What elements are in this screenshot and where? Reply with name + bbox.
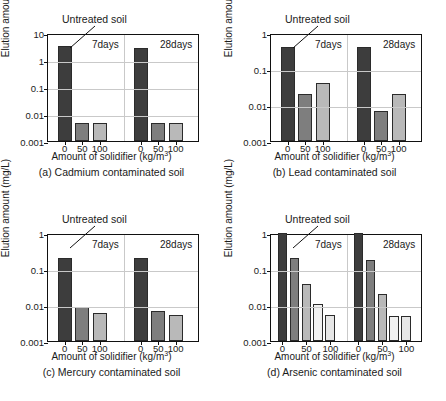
gridline <box>48 271 198 272</box>
bar <box>93 123 107 141</box>
bar <box>298 94 312 141</box>
untreated-soil-annotation-c: Untreated soil <box>62 214 127 225</box>
bar <box>354 233 364 341</box>
group-label-7days-b: 7days <box>315 40 342 50</box>
plot-area-c: 10.10.010.001050100050100 <box>47 234 199 342</box>
untreated-soil-annotation-a: Untreated soil <box>62 14 127 25</box>
y-tick-label: 0.01 <box>26 111 45 121</box>
group-divider <box>124 35 125 141</box>
y-tick-mark <box>44 116 48 117</box>
y-tick-label: 1 <box>262 30 267 40</box>
y-axis-label-c: Elution amount (mg/L) <box>0 154 13 262</box>
x-axis-label-c: Amount of solidifier (kg/m3) <box>0 350 223 362</box>
y-tick-label: 0.1 <box>31 266 44 276</box>
panel-caption-d: (d) Arsenic contaminated soil <box>223 366 446 378</box>
group-label-28days-b: 28days <box>383 40 415 50</box>
y-tick-label: 0.001 <box>243 138 267 148</box>
y-tick-label: 0.01 <box>26 302 45 312</box>
untreated-soil-annotation-b: Untreated soil <box>285 14 350 25</box>
y-tick-label: 1 <box>262 230 267 240</box>
y-tick-label: 1 <box>39 57 44 67</box>
bar <box>401 316 411 341</box>
bar <box>313 304 323 341</box>
panel-caption-a: (a) Cadmium contaminated soil <box>0 166 223 178</box>
y-tick-mark <box>267 235 271 236</box>
y-tick-mark <box>44 62 48 63</box>
x-axis-label-a: Amount of solidifier (kg/m3) <box>0 150 223 162</box>
group-label-28days-a: 28days <box>160 40 192 50</box>
group-label-28days-d: 28days <box>383 240 415 250</box>
group-label-7days-a: 7days <box>92 40 119 50</box>
y-tick-mark <box>267 143 271 144</box>
gridline <box>271 307 421 308</box>
y-tick-mark <box>267 307 271 308</box>
group-label-28days-c: 28days <box>160 240 192 250</box>
bar <box>169 315 183 341</box>
bar <box>389 316 399 341</box>
gridline <box>48 89 198 90</box>
y-tick-label: 0.001 <box>20 338 44 348</box>
group-divider <box>347 35 348 141</box>
bar <box>278 233 288 341</box>
group-divider <box>347 235 348 341</box>
y-tick-mark <box>44 143 48 144</box>
bars-container-b <box>271 35 421 141</box>
y-tick-mark <box>44 307 48 308</box>
y-tick-mark <box>267 35 271 36</box>
chart-panel-arsenic: Elution amount (mg/L) 10.10.010.00105010… <box>223 200 446 400</box>
gridline <box>271 271 421 272</box>
y-tick-label: 0.1 <box>31 84 44 94</box>
bar <box>93 313 107 341</box>
bar <box>58 46 72 141</box>
bar <box>374 111 388 141</box>
bar <box>151 123 165 141</box>
bar <box>316 83 330 141</box>
x-axis-label-b: Amount of solidifier (kg/m3) <box>223 150 446 162</box>
bars-container-d <box>271 235 421 341</box>
y-tick-mark <box>44 89 48 90</box>
y-tick-mark <box>267 343 271 344</box>
chart-panel-mercury: Elution amount (mg/L) 10.10.010.00105010… <box>0 200 223 400</box>
y-tick-mark <box>267 107 271 108</box>
panel-caption-b: (b) Lead contaminated soil <box>223 166 446 178</box>
chart-panel-lead: Elution amount (mg/L) 10.10.010.00105010… <box>223 0 446 200</box>
y-tick-label: 10 <box>33 30 44 40</box>
y-tick-label: 0.01 <box>249 102 268 112</box>
group-divider <box>124 235 125 341</box>
y-tick-label: 0.001 <box>243 338 267 348</box>
bar <box>281 47 295 141</box>
plot-area-b: 10.10.010.001050100050100 <box>270 34 422 142</box>
gridline <box>48 116 198 117</box>
bar <box>325 315 335 341</box>
bar <box>357 47 371 141</box>
y-tick-mark <box>44 343 48 344</box>
plot-area-d: 10.10.010.001050100050100 <box>270 234 422 342</box>
y-tick-label: 0.1 <box>254 66 267 76</box>
plot-area-a: 1010.10.010.001050100050100 <box>47 34 199 142</box>
y-tick-label: 0.01 <box>249 302 268 312</box>
group-label-7days-d: 7days <box>315 240 342 250</box>
y-tick-label: 1 <box>39 230 44 240</box>
untreated-soil-annotation-d: Untreated soil <box>285 214 350 225</box>
gridline <box>48 307 198 308</box>
y-tick-mark <box>267 71 271 72</box>
group-label-7days-c: 7days <box>92 240 119 250</box>
y-tick-mark <box>44 35 48 36</box>
chart-panel-cadmium: Elution amount (mg/L) 1010.10.010.001050… <box>0 0 223 200</box>
bar <box>75 307 89 341</box>
bar <box>169 123 183 141</box>
bar <box>392 94 406 141</box>
y-tick-mark <box>44 235 48 236</box>
bars-container-c <box>48 235 198 341</box>
y-axis-label-a: Elution amount (mg/L) <box>0 0 13 62</box>
bars-container-a <box>48 35 198 141</box>
bar <box>378 294 388 341</box>
bar <box>302 284 312 341</box>
gridline <box>48 62 198 63</box>
y-tick-mark <box>44 271 48 272</box>
gridline <box>271 107 421 108</box>
bar <box>151 311 165 341</box>
panel-caption-c: (c) Mercury contaminated soil <box>0 366 223 378</box>
y-tick-label: 0.1 <box>254 266 267 276</box>
bar <box>75 123 89 141</box>
